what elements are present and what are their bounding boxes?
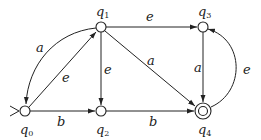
state-q0 [20, 106, 30, 116]
edge-q4-q3 [208, 29, 236, 107]
start-arrow-icon [10, 106, 19, 116]
edge-label-q3-q4: a [194, 60, 202, 75]
edge-q1-q4 [105, 31, 195, 106]
label-q0: q0 [20, 122, 33, 138]
edge-label-q1-q2: e [104, 62, 112, 77]
edge-label-q1-q0: a [36, 40, 44, 55]
edge-label-q0-q2: b [57, 114, 65, 129]
edge-label-q1-q4: a [147, 53, 155, 68]
state-q1 [96, 22, 106, 32]
state-q4-accepting [195, 103, 211, 119]
label-q3: q3 [198, 4, 211, 20]
label-q1: q1 [96, 4, 109, 20]
edge-label-q0-q1: e [62, 70, 70, 85]
automaton-diagram: q0 q1 q2 q3 q4 a e e e a b b a e [0, 0, 261, 140]
edge-label-q4-q3: e [243, 62, 251, 77]
label-q2: q2 [96, 122, 109, 138]
edge-label-q2-q4: b [149, 114, 157, 129]
state-q2 [96, 106, 106, 116]
edge-label-q1-q3: e [146, 9, 154, 24]
state-q3 [198, 22, 208, 32]
label-q4: q4 [198, 122, 211, 138]
